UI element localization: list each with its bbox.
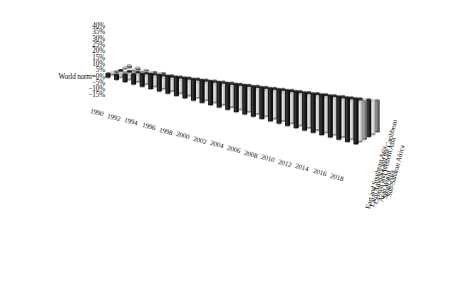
bar (140, 73, 145, 88)
bar (157, 74, 162, 93)
bar (234, 83, 239, 113)
bar (131, 73, 136, 85)
bar (311, 92, 316, 133)
bar (328, 95, 333, 139)
bar (294, 90, 299, 129)
bar (285, 89, 290, 127)
bar (174, 76, 179, 97)
bar (165, 75, 170, 95)
bar (259, 86, 264, 120)
bar (336, 96, 341, 141)
bar (208, 80, 213, 106)
bar (345, 97, 350, 143)
chart-root: 40%35%30%25%20%15%10%5%World norm=0%−5%−… (0, 0, 458, 289)
bar (182, 77, 187, 99)
bar (123, 67, 128, 71)
bar (319, 93, 324, 136)
bar (225, 82, 230, 111)
bar (251, 85, 256, 118)
bar (106, 73, 111, 79)
bar (277, 88, 282, 124)
bar (353, 98, 358, 146)
bar (114, 74, 119, 81)
bar (123, 73, 128, 83)
y-axis-tick-label: −15% (88, 92, 105, 99)
bar (148, 73, 153, 90)
bar (200, 79, 205, 104)
bars-layer (106, 64, 380, 145)
bar (191, 78, 196, 102)
bar (242, 84, 247, 115)
bar (217, 81, 222, 109)
bar (268, 87, 273, 122)
bar (302, 91, 307, 131)
